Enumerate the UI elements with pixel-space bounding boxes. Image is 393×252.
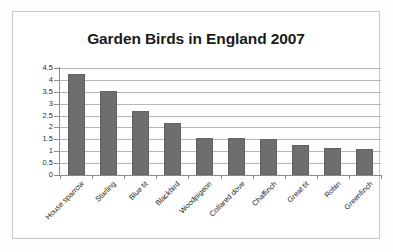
- y-tick-label: 4: [49, 76, 53, 84]
- y-tick-label: 0.5: [43, 159, 53, 167]
- bar[interactable]: [100, 91, 117, 175]
- y-tick-label: 1: [49, 147, 53, 155]
- y-tick-label: 3: [49, 100, 53, 108]
- x-tick-label: Greenfinch: [343, 180, 374, 211]
- x-tick-label: Robin: [323, 180, 342, 199]
- bar[interactable]: [292, 145, 309, 175]
- chart-frame: Garden Birds in England 2007 00.511.522.…: [12, 11, 380, 239]
- x-axis-labels: House sparrowStarlingBlue titBlackbirdWo…: [60, 180, 381, 242]
- bar-slot: [124, 68, 156, 175]
- x-tick-mark: [317, 175, 318, 179]
- bar-slot: [188, 68, 220, 175]
- y-tick-label: 2: [49, 124, 53, 132]
- x-tick-mark: [124, 175, 125, 179]
- x-tick-label: Chaffinch: [250, 180, 278, 208]
- y-tick-label: 0: [49, 171, 53, 179]
- bar-slot: [92, 68, 124, 175]
- x-tick-mark: [253, 175, 254, 179]
- chart-page: Garden Birds in England 2007 00.511.522.…: [0, 0, 393, 252]
- x-tick-label: Great tit: [286, 180, 310, 204]
- x-tick-label: House sparrow: [44, 180, 85, 221]
- bar[interactable]: [164, 123, 181, 175]
- y-tick-label: 4.5: [43, 64, 53, 72]
- bar[interactable]: [68, 74, 85, 175]
- bar-slot: [349, 68, 381, 175]
- x-tick-mark: [221, 175, 222, 179]
- bar[interactable]: [356, 149, 373, 175]
- x-tick-label: Blackbird: [155, 180, 182, 207]
- x-tick-label: Starling: [94, 180, 117, 203]
- x-tick-mark: [92, 175, 93, 179]
- bar[interactable]: [228, 138, 245, 175]
- y-tick-label: 3.5: [43, 88, 53, 96]
- bar[interactable]: [260, 139, 277, 175]
- bar[interactable]: [132, 111, 149, 175]
- y-axis-labels: 00.511.522.533.544.5: [27, 68, 53, 175]
- bar-slot: [156, 68, 188, 175]
- bar-slot: [60, 68, 92, 175]
- y-tick-label: 2.5: [43, 112, 53, 120]
- bar[interactable]: [196, 138, 213, 175]
- x-tick-mark: [60, 175, 61, 179]
- x-tick-mark: [188, 175, 189, 179]
- bar[interactable]: [324, 148, 341, 175]
- plot-area: [60, 68, 381, 175]
- bar-slot: [253, 68, 285, 175]
- x-tick-mark: [349, 175, 350, 179]
- bar-series: [60, 68, 381, 175]
- x-tick-mark: [156, 175, 157, 179]
- x-tick-mark: [285, 175, 286, 179]
- bar-slot: [317, 68, 349, 175]
- page-title: Garden Birds in England 2007: [13, 30, 379, 48]
- bar-slot: [285, 68, 317, 175]
- y-tick-label: 1.5: [43, 136, 53, 144]
- x-tick-mark: [381, 175, 382, 179]
- x-tick-label: Blue tit: [128, 180, 150, 202]
- bar-slot: [220, 68, 252, 175]
